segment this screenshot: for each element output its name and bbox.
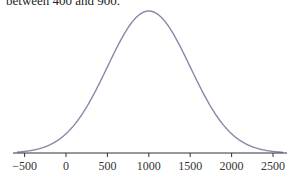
x-axis-ticks: −50005001000150020002500	[12, 153, 285, 173]
x-tick-label: 0	[63, 159, 69, 173]
x-tick-label: 500	[98, 159, 116, 173]
x-tick-label: 2500	[261, 159, 285, 173]
normal-distribution-chart: −50005001000150020002500	[0, 0, 294, 179]
density-curve	[17, 11, 283, 152]
x-tick-label: 2000	[220, 159, 244, 173]
x-tick-label: −500	[12, 159, 37, 173]
x-tick-label: 1000	[137, 159, 161, 173]
x-tick-label: 1500	[178, 159, 202, 173]
